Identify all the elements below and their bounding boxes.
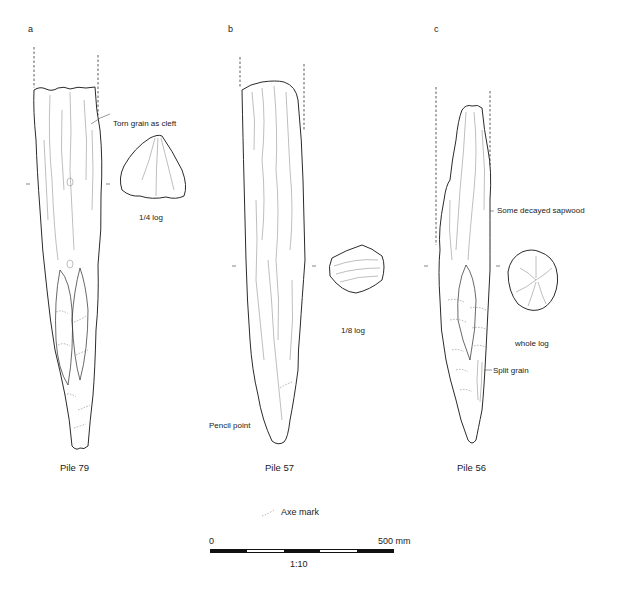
section-label-quarter-log: 1/4 log — [139, 213, 163, 222]
panel-letter-a: a — [28, 24, 33, 34]
pile-79-drawing — [26, 47, 186, 449]
annotation-split-grain: Split grain — [493, 366, 529, 375]
dashed-curve-icon — [262, 510, 274, 516]
panel-letter-c: c — [434, 24, 439, 34]
pile-title-56: Pile 56 — [457, 462, 486, 473]
annotation-pencil-point: Pencil point — [209, 421, 250, 430]
scale-segment — [357, 549, 394, 553]
annotation-torn-grain: Torn grain as cleft — [113, 119, 176, 128]
pile-56-drawing — [424, 87, 558, 443]
scale-ratio-label: 1:10 — [290, 559, 308, 569]
scale-segment — [210, 549, 247, 553]
pile-drawings — [0, 0, 627, 591]
scale-segment — [247, 549, 284, 553]
section-label-eighth-log: 1/8 log — [341, 326, 365, 335]
annotation-decayed-sapwood: Some decayed sapwood — [497, 206, 585, 215]
scale-segment — [284, 549, 321, 553]
panel-letter-b: b — [228, 24, 233, 34]
pile-title-57: Pile 57 — [265, 462, 294, 473]
pile-title-79: Pile 79 — [60, 462, 89, 473]
scale-segment — [320, 549, 357, 553]
scale-bar — [210, 549, 394, 553]
pile-57-drawing — [232, 57, 384, 444]
scale-end-label: 500 mm — [378, 536, 411, 546]
legend-axe-mark-label: Axe mark — [281, 507, 319, 517]
section-label-whole-log: whole log — [515, 339, 549, 348]
scale-start-label: 0 — [209, 536, 214, 546]
